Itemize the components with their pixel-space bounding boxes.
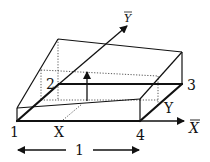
corner-label-4: 4: [136, 127, 145, 143]
axis-label-x: X: [188, 120, 200, 136]
point-label-x: X: [54, 124, 64, 140]
y-axis-arrow: [59, 26, 127, 84]
corner-label-1: 1: [10, 124, 19, 140]
point-label-y: Y: [163, 100, 174, 116]
box-diagram: 1 2 3 4 X Y X Y 1: [0, 0, 210, 162]
width-label: 1: [75, 142, 84, 158]
axis-label-y: Y: [124, 12, 133, 25]
corner-label-3: 3: [187, 77, 196, 93]
corner-label-2: 2: [46, 76, 55, 92]
box-edges: [17, 39, 182, 121]
